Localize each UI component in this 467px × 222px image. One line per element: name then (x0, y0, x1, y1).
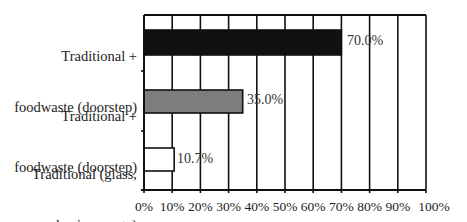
x-tick-label: 60% (301, 199, 326, 215)
value-label-1: 35.0% (247, 92, 283, 108)
bars (144, 30, 341, 171)
category-label-2: Traditional (glass, paper, packaging was… (0, 132, 137, 222)
x-tick-label: 20% (188, 199, 213, 215)
x-tick-label: 90% (385, 199, 410, 215)
x-tick-label: 0% (135, 199, 153, 215)
x-tick-label: 10% (160, 199, 185, 215)
x-tick-label: 80% (357, 199, 382, 215)
x-tick-label: 70% (329, 199, 354, 215)
bar-0 (144, 30, 341, 55)
x-tick-label: 50% (273, 199, 298, 215)
value-label-2: 10.7% (177, 151, 213, 167)
category-label-0-line1: Traditional + (14, 48, 137, 65)
bar-2 (144, 148, 174, 171)
x-tick-label: 40% (244, 199, 269, 215)
x-tick-label: 30% (216, 199, 241, 215)
value-label-0: 70.0% (347, 33, 383, 49)
x-tick-label: 100% (418, 199, 450, 215)
bar-chart: Traditional + foodwaste (doorstep) Tradi… (0, 0, 467, 222)
bar-1 (144, 90, 243, 113)
category-label-1-line1: Traditional + (14, 108, 137, 125)
category-label-2-line1: Traditional (glass, (0, 166, 137, 183)
category-label-2-line2: paper, packaging waste) (0, 217, 137, 222)
